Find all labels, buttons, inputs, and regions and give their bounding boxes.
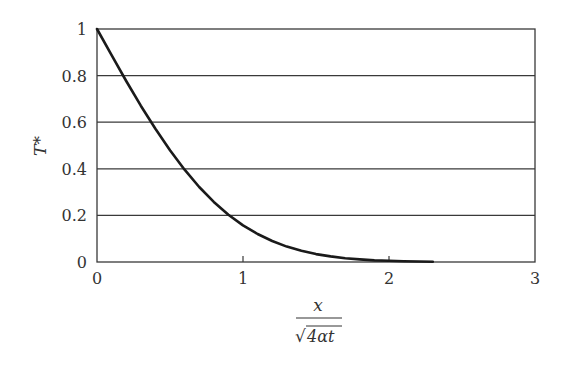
y-tick-label: 0.2 [62, 206, 87, 225]
y-axis-label-text: T* [30, 136, 50, 156]
x-tick-label: 0 [92, 269, 102, 288]
horizontal-grid-lines [97, 76, 535, 216]
x-axis-tick-labels: 0123 [92, 269, 540, 288]
y-tick-label: 0.4 [62, 160, 87, 179]
x-tick-label: 2 [384, 269, 394, 288]
chart: 00.20.40.60.81 0123 T* x √ 4αt [0, 0, 562, 372]
plot-frame [97, 29, 535, 262]
radical-sign: √ [295, 326, 306, 346]
y-tick-label: 0.8 [62, 67, 87, 86]
y-tick-label: 0.6 [62, 113, 87, 132]
x-axis-label-numerator: x [313, 295, 323, 315]
y-tick-label: 1 [77, 20, 87, 39]
y-axis-label: T* [30, 136, 50, 156]
y-axis-tick-labels: 00.20.40.60.81 [62, 20, 87, 272]
x-tick-label: 1 [238, 269, 248, 288]
x-axis-label-denominator: 4αt [306, 327, 335, 346]
svg-text:T*: T* [30, 136, 50, 156]
y-tick-label: 0 [77, 253, 87, 272]
x-tick-label: 3 [530, 269, 540, 288]
x-axis-label: x √ 4αt [295, 295, 342, 346]
data-curve [97, 29, 433, 262]
